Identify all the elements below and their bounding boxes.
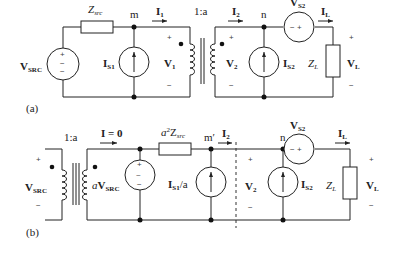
polarity-dot — [220, 42, 225, 47]
vs2-label: VS2 — [290, 119, 306, 133]
minus-sign: − — [248, 203, 253, 212]
il-label: IL — [321, 5, 330, 19]
polarity-dot — [179, 42, 184, 47]
i2-label: I2 — [222, 127, 230, 141]
i2-label: I2 — [232, 5, 240, 19]
caption-b: (b) — [26, 226, 39, 239]
vl-label: VL — [366, 179, 379, 193]
node-m-prime-label: m′ — [204, 131, 215, 143]
node — [138, 218, 143, 223]
source-polarity: − + — [290, 23, 302, 32]
vsrc-label: VSRC — [20, 60, 42, 74]
figure-b: 1:a + VSRC − I = 0 + ~ − aVSRC a2Zsrc m′… — [25, 119, 379, 239]
source-impedance — [81, 21, 113, 33]
plus-sign: + — [349, 33, 354, 42]
v1-label: V1 — [164, 57, 176, 71]
wire — [113, 27, 190, 44]
minus-sign: − — [60, 67, 65, 76]
i1-label: I1 — [156, 5, 164, 19]
polarity-dot — [50, 165, 55, 170]
polarity-dot — [93, 165, 98, 170]
inductor-coil-primary — [190, 44, 195, 82]
vs2-label: VS2 — [290, 0, 306, 10]
il-label: IL — [338, 127, 347, 141]
node-n-label: n — [280, 131, 286, 143]
node-m-label: m — [130, 8, 139, 20]
plus-sign: + — [167, 33, 172, 42]
is1a-label: IS1/a — [168, 178, 188, 192]
node — [209, 218, 214, 223]
wire — [45, 204, 62, 220]
is1-label: IS1 — [103, 57, 115, 71]
inductor-coil-secondary — [83, 170, 88, 204]
v2-label: V2 — [226, 57, 238, 71]
source-polarity: − + — [290, 145, 302, 154]
node — [138, 147, 143, 152]
load-impedance — [326, 45, 340, 77]
node-m — [132, 25, 137, 30]
load-impedance — [343, 167, 357, 199]
is2-label: IS2 — [283, 57, 295, 71]
wire — [315, 149, 350, 167]
node-n — [262, 25, 267, 30]
node — [262, 95, 267, 100]
minus-sign: − — [36, 201, 41, 210]
is2-label: IS2 — [301, 178, 313, 192]
wire — [315, 27, 333, 45]
circuit-diagram: Zsrc + − − VSRC IS1 m I1 + V1 − 1:a — [0, 0, 397, 253]
vsrc-label: VSRC — [25, 181, 47, 195]
zl-label: ZL — [308, 57, 318, 71]
source-impedance-label: Zsrc — [88, 3, 103, 17]
minus-sign: − — [137, 180, 142, 189]
inductor-coil-primary — [62, 170, 67, 204]
node-m-prime — [209, 147, 214, 152]
avsrc-label: aVSRC — [92, 179, 119, 193]
minus-sign: − — [229, 81, 234, 90]
node — [281, 218, 286, 223]
transformer-ratio: 1:a — [194, 5, 208, 17]
reflected-impedance — [159, 143, 191, 155]
inductor-coil-secondary — [211, 44, 216, 82]
plus-sign: + — [36, 155, 41, 164]
node-n-label: n — [261, 8, 267, 20]
caption-a: (a) — [26, 102, 39, 115]
plus-sign: + — [369, 155, 374, 164]
vl-label: VL — [347, 57, 360, 71]
zl-label: ZL — [326, 179, 336, 193]
ac-symbol: ~ — [136, 171, 141, 180]
plus-sign: + — [229, 33, 234, 42]
wire — [215, 27, 283, 44]
plus-sign: + — [60, 50, 65, 59]
minus-sign: − — [167, 81, 172, 90]
plus-sign: + — [137, 160, 142, 169]
a2zsrc-label: a2Zsrc — [161, 126, 186, 140]
plus-sign: + — [248, 155, 253, 164]
v2-label: V2 — [245, 180, 257, 194]
zero-current-label: I = 0 — [101, 127, 123, 139]
figure-a: Zsrc + − − VSRC IS1 m I1 + V1 − 1:a — [20, 0, 360, 115]
minus-sign: − — [369, 201, 374, 210]
wire — [87, 204, 350, 220]
node — [132, 95, 137, 100]
transformer-ratio: 1:a — [64, 131, 78, 143]
minus-sign: − — [349, 81, 354, 90]
